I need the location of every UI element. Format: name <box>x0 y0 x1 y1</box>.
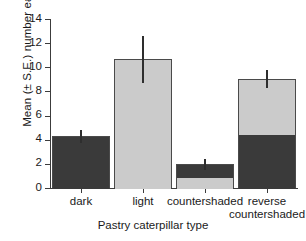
error-bar-countershaded <box>204 159 205 170</box>
bar-segment-light <box>177 178 233 189</box>
y-tick-label-12: 12 <box>29 36 42 48</box>
bar-segment-dark <box>53 137 109 189</box>
y-tick-label-6: 6 <box>36 108 42 120</box>
error-bar-reverse-countershaded <box>266 70 267 89</box>
x-axis-title: Pastry caterpillar type <box>0 219 306 231</box>
bar-dark <box>52 136 110 188</box>
x-tick-3 <box>267 189 268 193</box>
x-tick-1 <box>143 189 144 193</box>
y-tick-2: 2 <box>45 164 50 165</box>
plot-area: 02468101214 <box>50 19 298 188</box>
bar-chart-figure: Mean (± S.E.) number eaten 02468101214 d… <box>0 0 306 241</box>
y-tick-label-2: 2 <box>36 156 42 168</box>
y-tick-label-14: 14 <box>29 12 42 24</box>
y-tick-label-4: 4 <box>36 132 42 144</box>
y-tick-12: 12 <box>45 43 50 44</box>
x-tick-2 <box>205 189 206 193</box>
y-tick-4: 4 <box>45 140 50 141</box>
bar-segment-dark <box>239 135 295 189</box>
x-tick-label-line: reverse <box>248 195 286 207</box>
y-tick-14: 14 <box>45 19 50 20</box>
y-tick-0: 0 <box>45 188 50 189</box>
y-tick-label-10: 10 <box>29 60 42 72</box>
y-tick-6: 6 <box>45 116 50 117</box>
y-tick-10: 10 <box>45 67 50 68</box>
bar-reverse-countershaded <box>238 79 296 188</box>
y-tick-label-8: 8 <box>36 84 42 96</box>
y-tick-label-0: 0 <box>36 181 42 193</box>
x-tick-0 <box>81 189 82 193</box>
error-bar-dark <box>80 130 81 143</box>
y-tick-8: 8 <box>45 91 50 92</box>
x-tick-label-reverse-countershaded: reversecountershaded <box>207 195 306 221</box>
y-axis-line <box>50 19 51 188</box>
error-bar-light <box>142 36 143 83</box>
